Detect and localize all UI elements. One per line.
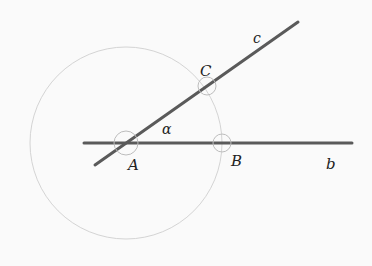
label-point-c: C bbox=[200, 62, 212, 80]
label-line-c: c bbox=[253, 30, 261, 46]
geometry-diagram: C c α A B b bbox=[0, 0, 372, 266]
label-line-b: b bbox=[326, 155, 336, 173]
label-angle-alpha: α bbox=[162, 121, 172, 137]
label-point-b: B bbox=[230, 152, 242, 170]
label-point-a: A bbox=[126, 156, 139, 174]
canvas-background bbox=[0, 0, 372, 266]
